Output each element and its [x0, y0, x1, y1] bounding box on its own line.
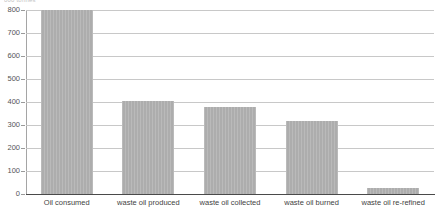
- x-axis-baseline: [26, 194, 435, 195]
- y-tick-label-200: 200: [7, 144, 20, 152]
- y-tick-label-700: 700: [7, 29, 20, 37]
- bar-slot: [271, 10, 353, 194]
- bar-slot: [108, 10, 190, 194]
- y-tick-mark-200: [21, 148, 25, 149]
- category-label: waste oil re-refined: [352, 198, 434, 207]
- bar-slot: [189, 10, 271, 194]
- y-tick-mark-300: [21, 125, 25, 126]
- y-tick-mark-800: [21, 10, 25, 11]
- bar-chart: 000 tonnes 0100200300400500600700800 Oil…: [0, 0, 440, 219]
- bar[interactable]: [41, 10, 93, 194]
- y-tick-mark-0: [21, 194, 25, 195]
- category-labels: Oil consumedwaste oil producedwaste oil …: [26, 198, 434, 216]
- y-tick-label-100: 100: [7, 167, 20, 175]
- bar[interactable]: [286, 121, 338, 194]
- y-tick-label-800: 800: [7, 6, 20, 14]
- category-label: Oil consumed: [26, 198, 108, 207]
- category-label: waste oil burned: [271, 198, 353, 207]
- y-tick-label-500: 500: [7, 75, 20, 83]
- category-label: waste oil produced: [108, 198, 190, 207]
- y-tick-mark-600: [21, 56, 25, 57]
- bar-series: [26, 10, 434, 194]
- y-tick-label-0: 0: [16, 190, 20, 198]
- bar[interactable]: [204, 107, 256, 194]
- y-tick-label-400: 400: [7, 98, 20, 106]
- bar-slot: [26, 10, 108, 194]
- y-tick-mark-500: [21, 79, 25, 80]
- category-label: waste oil collected: [189, 198, 271, 207]
- bar-slot: [352, 10, 434, 194]
- y-tick-label-600: 600: [7, 52, 20, 60]
- y-tick-mark-100: [21, 171, 25, 172]
- plot-area: 0100200300400500600700800: [26, 10, 434, 194]
- y-tick-mark-700: [21, 33, 25, 34]
- y-axis-unit-caption: 000 tonnes: [4, 0, 36, 4]
- bar[interactable]: [122, 101, 174, 194]
- y-tick-mark-400: [21, 102, 25, 103]
- y-tick-label-300: 300: [7, 121, 20, 129]
